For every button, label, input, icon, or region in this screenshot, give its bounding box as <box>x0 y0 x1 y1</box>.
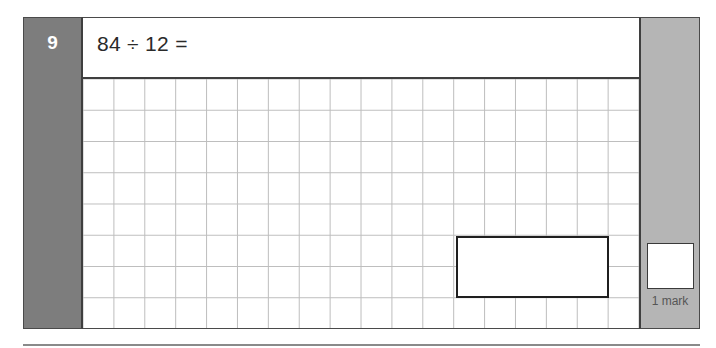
answer-box[interactable] <box>456 236 609 298</box>
separator-line <box>23 344 700 346</box>
question-number-panel: 9 <box>23 17 83 329</box>
mark-label: 1 mark <box>641 294 699 308</box>
question-number: 9 <box>24 32 81 54</box>
mark-box[interactable] <box>647 243 694 289</box>
marks-panel: 1 mark <box>639 17 700 329</box>
question-header: 84 ÷ 12 = <box>83 17 639 79</box>
question-text: 84 ÷ 12 = <box>97 32 188 56</box>
